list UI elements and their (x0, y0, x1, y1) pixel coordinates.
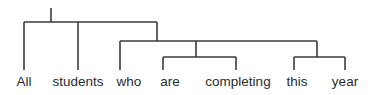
leaf-who-label: who (117, 75, 142, 89)
leaf-year-label: year (332, 75, 358, 89)
leaf-all-label: All (16, 75, 31, 89)
leaf-are-label: are (160, 75, 180, 89)
syntax-tree-figure: Allstudentswhoarecompletingthisyear (0, 0, 376, 95)
leaf-students-label: students (52, 75, 103, 89)
leaf-completing-label: completing (205, 75, 270, 89)
leaf-stem-group (24, 22, 345, 70)
leaf-this-label: this (286, 75, 307, 89)
